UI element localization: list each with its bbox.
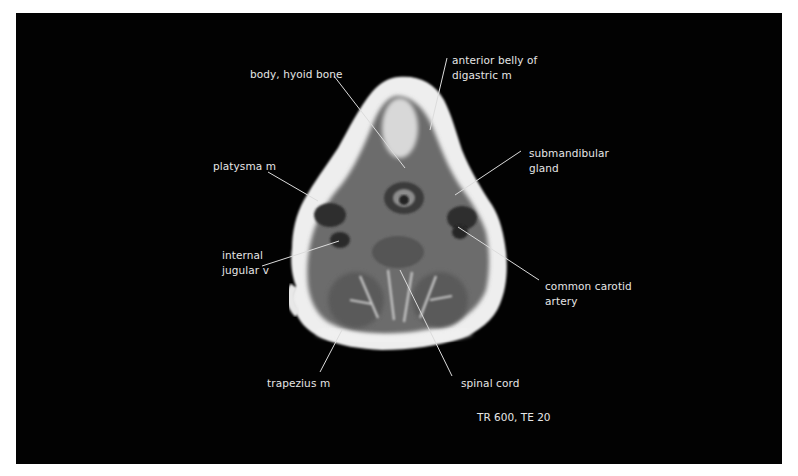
- label-trapezius: trapezius m: [267, 376, 330, 391]
- sequence-caption: TR 600, TE 20: [477, 410, 551, 424]
- label-common-carotid: common carotid artery: [545, 279, 632, 309]
- label-platysma: platysma m: [213, 159, 276, 174]
- label-submandibular-gland: submandibular gland: [529, 146, 609, 176]
- label-body-hyoid-bone: body, hyoid bone: [250, 67, 343, 82]
- label-spinal-cord: spinal cord: [461, 376, 520, 391]
- mri-neck-cross-section: [0, 0, 798, 476]
- label-internal-jugular: internal jugular v: [222, 248, 269, 278]
- label-anterior-belly-digastric: anterior belly of digastric m: [452, 53, 537, 83]
